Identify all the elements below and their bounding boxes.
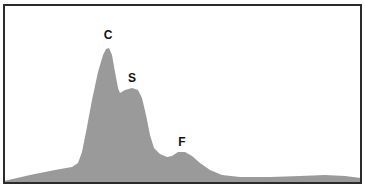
profile-area [4, 48, 361, 183]
peak-label-c: C [104, 28, 113, 42]
peak-label-s: S [128, 71, 136, 85]
densitometry-chart: C S F [0, 0, 365, 189]
peak-label-f: F [178, 135, 185, 149]
